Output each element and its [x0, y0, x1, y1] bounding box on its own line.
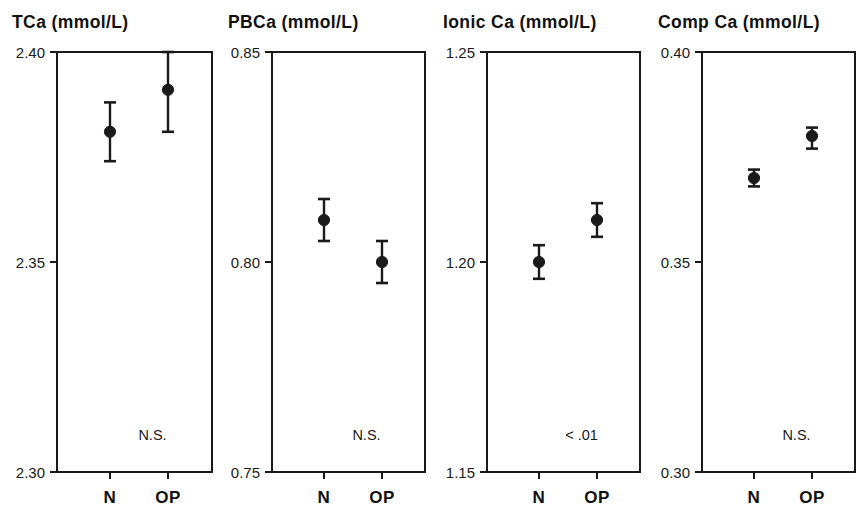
panel-title-0: TCa (mmol/L) [12, 12, 129, 32]
figure-root: TCa (mmol/L)2.302.352.40NOPN.S.PBCa (mmo… [0, 0, 867, 518]
data-point-marker-0-0 [104, 126, 115, 137]
y-tick-label-3-0: 0.30 [661, 464, 690, 481]
x-category-label-0-1: OP [155, 488, 181, 507]
y-tick-label-0-2: 2.40 [16, 44, 45, 61]
plot-frame-0 [57, 52, 212, 472]
y-tick-label-0-0: 2.30 [16, 464, 45, 481]
panel-title-2: Ionic Ca (mmol/L) [443, 12, 597, 32]
significance-annotation-3: N.S. [782, 427, 810, 443]
y-tick-label-0-1: 2.35 [16, 254, 45, 271]
data-point-marker-0-1 [162, 84, 173, 95]
y-tick-label-1-2: 0.85 [231, 44, 260, 61]
y-tick-label-3-1: 0.35 [661, 254, 690, 271]
y-tick-label-2-0: 1.15 [446, 464, 475, 481]
data-point-marker-2-1 [591, 214, 602, 225]
data-point-marker-1-1 [376, 256, 387, 267]
plot-frame-3 [702, 52, 855, 472]
y-tick-label-3-2: 0.40 [661, 44, 690, 61]
x-category-label-2-0: N [533, 488, 546, 507]
x-category-label-0-0: N [104, 488, 117, 507]
y-tick-label-2-2: 1.25 [446, 44, 475, 61]
plot-frame-2 [487, 52, 640, 472]
x-category-label-3-1: OP [799, 488, 825, 507]
panel-title-3: Comp Ca (mmol/L) [658, 12, 820, 32]
x-category-label-1-1: OP [369, 488, 395, 507]
data-point-marker-3-0 [748, 172, 759, 183]
y-tick-label-2-1: 1.20 [446, 254, 475, 271]
data-point-marker-2-0 [533, 256, 544, 267]
x-category-label-2-1: OP [584, 488, 610, 507]
significance-annotation-0: N.S. [138, 427, 166, 443]
y-tick-label-1-1: 0.80 [231, 254, 260, 271]
calcium-fractions-figure: TCa (mmol/L)2.302.352.40NOPN.S.PBCa (mmo… [0, 0, 867, 518]
y-tick-label-1-0: 0.75 [231, 464, 260, 481]
x-category-label-1-0: N [318, 488, 331, 507]
panel-title-1: PBCa (mmol/L) [228, 12, 359, 32]
plot-frame-1 [272, 52, 425, 472]
x-category-label-3-0: N [748, 488, 761, 507]
data-point-marker-3-1 [806, 130, 817, 141]
significance-annotation-1: N.S. [352, 427, 380, 443]
significance-annotation-2: < .01 [565, 427, 598, 443]
data-point-marker-1-0 [318, 214, 329, 225]
